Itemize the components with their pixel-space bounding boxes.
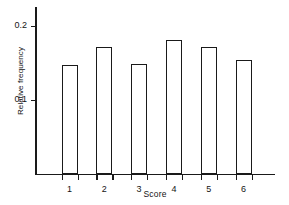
x-axis-tick bbox=[166, 175, 167, 180]
x-axis-tick bbox=[147, 175, 148, 180]
y-axis-tick: 0.2 bbox=[31, 26, 37, 27]
bar bbox=[62, 65, 78, 174]
x-axis-tick bbox=[252, 175, 253, 180]
x-axis-tick bbox=[236, 175, 237, 180]
x-axis-tick bbox=[96, 175, 97, 180]
x-axis-tick bbox=[217, 175, 218, 180]
bar bbox=[131, 64, 147, 174]
x-axis-tick bbox=[112, 175, 113, 180]
y-axis-line bbox=[35, 7, 37, 175]
plot-area: 0.10.2 123456 bbox=[35, 7, 275, 175]
bar bbox=[96, 47, 112, 174]
x-axis-tick bbox=[78, 175, 79, 180]
x-axis-tick bbox=[182, 175, 183, 180]
bar-chart: Relative frequency 0.10.2 123456 Score bbox=[0, 0, 289, 205]
y-axis-tick: 0.1 bbox=[31, 100, 37, 101]
y-axis-tick-label: 0.2 bbox=[14, 20, 27, 31]
bar bbox=[166, 40, 182, 174]
x-axis-tick bbox=[131, 175, 132, 180]
x-axis-line bbox=[35, 174, 275, 176]
x-axis-label: Score bbox=[35, 189, 275, 199]
x-axis-tick bbox=[62, 175, 63, 180]
bar bbox=[236, 60, 252, 173]
bar bbox=[201, 47, 217, 174]
y-axis-label: Relative frequency bbox=[14, 16, 28, 146]
y-axis-tick-label: 0.1 bbox=[14, 94, 27, 105]
x-axis-tick bbox=[201, 175, 202, 180]
